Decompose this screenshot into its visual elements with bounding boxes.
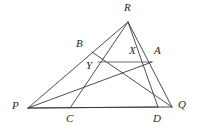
cevian-PD — [28, 107, 158, 108]
point-label-R: R — [124, 2, 131, 13]
point-label-X: X — [129, 45, 136, 56]
point-label-D: D — [153, 113, 161, 124]
cevian-RC — [70, 22, 128, 108]
point-label-B: B — [76, 38, 83, 49]
point-label-C: C — [66, 113, 73, 124]
point-label-A: A — [154, 45, 161, 56]
point-label-P: P — [12, 100, 19, 111]
geometry-diagram: R B X A Y P C D Q — [0, 0, 200, 131]
segment-layer — [28, 22, 172, 108]
side-PR — [28, 22, 128, 108]
diagram-canvas — [0, 0, 200, 131]
point-label-Q: Q — [178, 99, 186, 110]
side-RQ — [128, 22, 172, 107]
point-label-Y: Y — [86, 60, 92, 71]
